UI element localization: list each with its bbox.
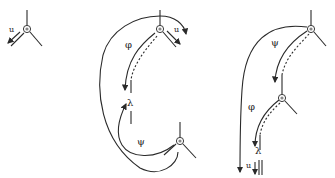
top-edge-down-right — [314, 32, 326, 46]
middle-u-label: u — [174, 26, 179, 34]
psi-arrow — [275, 31, 307, 82]
right-psi-label: ψ — [271, 38, 279, 48]
psi-arc — [119, 104, 174, 156]
middle-psi-label: ψ — [137, 137, 145, 147]
outer-curve — [100, 55, 178, 172]
middle-lambda-label: λ — [127, 98, 133, 108]
bottom-edge-down-right — [183, 144, 196, 158]
right-lambda-label: λ — [255, 146, 261, 156]
edge-down-right — [30, 32, 42, 46]
middle-panel — [100, 10, 196, 172]
diagram-svg — [0, 0, 335, 178]
right-u-label: u — [246, 162, 251, 170]
middle-phi-label: φ — [125, 40, 132, 50]
bottom-edge-down-left — [164, 144, 176, 155]
diagram-canvas: u u φ λ ψ ψ φ λ u — [0, 0, 335, 178]
mid-edge-down-right — [285, 101, 297, 114]
right-panel — [240, 10, 326, 175]
right-phi-label: φ — [248, 102, 255, 112]
left-u-label: u — [9, 26, 14, 34]
outer-top-arc — [103, 16, 186, 55]
outer-left-arrow — [240, 26, 307, 172]
